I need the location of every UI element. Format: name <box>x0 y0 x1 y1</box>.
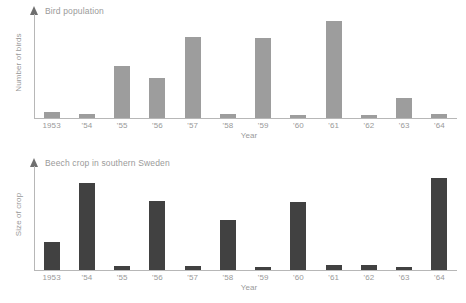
bar-group: '55 <box>105 14 140 118</box>
bar-group: '54 <box>69 14 104 118</box>
bar <box>185 266 201 270</box>
x-tick-label: '58 <box>223 273 234 282</box>
bar-group: '64 <box>422 166 457 270</box>
x-tick-label: '55 <box>117 273 128 282</box>
bar-group: '58 <box>210 14 245 118</box>
bar-group: '61 <box>316 14 351 118</box>
x-tick-label: '57 <box>187 273 198 282</box>
bar-group: 1953 <box>34 166 69 270</box>
x-tick-label: '61 <box>328 121 339 130</box>
x-axis-line <box>34 118 457 119</box>
bar <box>114 66 130 118</box>
bar-group: '58 <box>210 166 245 270</box>
bar <box>255 38 271 118</box>
x-tick-label: 1953 <box>43 273 61 282</box>
x-tick-label: '64 <box>434 273 445 282</box>
bar <box>114 266 130 270</box>
plot-area-beech: Beech crop in southern Sweden Size of cr… <box>0 152 466 303</box>
x-tick-label: '57 <box>187 121 198 130</box>
bar <box>149 201 165 270</box>
bar <box>220 114 236 118</box>
x-axis-label-beech: Year <box>16 283 466 292</box>
plot-area-bird: Bird population Number of birds Year 195… <box>0 0 466 151</box>
x-tick-label: '62 <box>364 273 375 282</box>
x-tick-label: '63 <box>399 273 410 282</box>
x-tick-label: '54 <box>82 121 93 130</box>
bar-group: '56 <box>140 14 175 118</box>
bar <box>185 37 201 118</box>
bar-group: '63 <box>387 166 422 270</box>
bar <box>44 112 60 118</box>
bar-series-beech: 1953'54'55'56'57'58'59'60'61'62'63'64 <box>34 166 457 270</box>
bar <box>255 267 271 270</box>
bar <box>220 220 236 270</box>
bar-group: '59 <box>246 166 281 270</box>
bar <box>396 98 412 118</box>
x-tick-label: '62 <box>364 121 375 130</box>
x-tick-label: '59 <box>258 273 269 282</box>
bar <box>326 21 342 118</box>
x-tick-label: '60 <box>293 121 304 130</box>
bar <box>79 114 95 118</box>
y-axis-label-beech: Size of crop <box>14 175 23 255</box>
x-tick-label: '58 <box>223 121 234 130</box>
bar <box>361 115 377 118</box>
bar <box>79 183 95 270</box>
x-axis-label-bird: Year <box>16 131 466 140</box>
chart-beech-crop: Beech crop in southern Sweden Size of cr… <box>0 152 466 303</box>
x-tick-label: 1953 <box>43 121 61 130</box>
y-axis-label-bird: Number of birds <box>14 23 23 103</box>
bar <box>361 265 377 270</box>
x-tick-label: '64 <box>434 121 445 130</box>
bar-group: '60 <box>281 166 316 270</box>
bar-group: '60 <box>281 14 316 118</box>
bar <box>44 242 60 270</box>
bar-group: '62 <box>351 166 386 270</box>
bar-group: '55 <box>105 166 140 270</box>
bar-group: '62 <box>351 14 386 118</box>
x-tick-label: '55 <box>117 121 128 130</box>
x-tick-label: '56 <box>152 121 163 130</box>
bar-group: '57 <box>175 166 210 270</box>
chart-bird-population: Bird population Number of birds Year 195… <box>0 0 466 151</box>
bar-group: '56 <box>140 166 175 270</box>
x-tick-label: '54 <box>82 273 93 282</box>
bar-group: 1953 <box>34 14 69 118</box>
bar <box>149 78 165 118</box>
bar <box>326 265 342 270</box>
x-tick-label: '56 <box>152 273 163 282</box>
bar-group: '57 <box>175 14 210 118</box>
x-tick-label: '60 <box>293 273 304 282</box>
bar-group: '64 <box>422 14 457 118</box>
bar-group: '59 <box>246 14 281 118</box>
bar-group: '61 <box>316 166 351 270</box>
bar <box>290 202 306 270</box>
x-tick-label: '63 <box>399 121 410 130</box>
bar-group: '63 <box>387 14 422 118</box>
bar <box>290 115 306 118</box>
bar <box>431 114 447 118</box>
x-tick-label: '59 <box>258 121 269 130</box>
bar-group: '54 <box>69 166 104 270</box>
bar <box>396 267 412 270</box>
x-axis-line <box>34 270 457 271</box>
x-tick-label: '61 <box>328 273 339 282</box>
bar-series-bird: 1953'54'55'56'57'58'59'60'61'62'63'64 <box>34 14 457 118</box>
bar <box>431 178 447 270</box>
